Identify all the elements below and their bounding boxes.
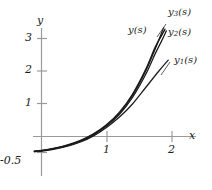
curve-label-y2-tail: (s) — [178, 26, 191, 37]
curve-label-y3-tail: (s) — [178, 6, 191, 17]
y-tick-label-2: 2 — [25, 64, 32, 75]
y-tick-label-1: 1 — [25, 97, 32, 108]
y-axis-label: y — [37, 15, 43, 26]
plot-area: x y 3 2 1 -0.5 1 2 y3(s) y(s) y2(s) y1(s… — [0, 0, 212, 190]
x-tick-label-1: 1 — [103, 144, 110, 155]
curve-y — [34, 29, 165, 151]
x-tick-label-2: 2 — [168, 144, 175, 155]
y-tick-label-3: 3 — [25, 32, 32, 43]
y-tick-label-minus-0-5: -0.5 — [0, 155, 21, 166]
curve-label-y-tail: (s) — [134, 24, 147, 35]
curve-label-y2: y2(s) — [168, 27, 191, 38]
curve-label-y1: y1(s) — [174, 55, 197, 66]
curve-label-y: y(s) — [128, 25, 147, 35]
x-axis-label: x — [189, 130, 195, 141]
curve-y1 — [34, 60, 168, 152]
curve-y2 — [34, 31, 166, 152]
curve-label-y3: y3(s) — [168, 7, 191, 18]
curve-label-y1-tail: (s) — [184, 54, 197, 65]
